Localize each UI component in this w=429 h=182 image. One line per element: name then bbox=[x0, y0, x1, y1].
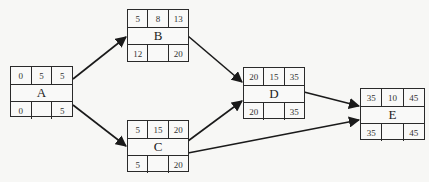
edge-c-d bbox=[188, 101, 242, 141]
node-d: 20 15 35 D 20 35 bbox=[243, 67, 305, 119]
node-d-bottom-row: 20 35 bbox=[244, 103, 304, 120]
late-finish: 20 bbox=[168, 45, 188, 62]
node-a-bottom-row: 0 5 bbox=[11, 102, 72, 119]
node-a: 0 5 5 A 0 5 bbox=[10, 66, 73, 117]
edge-c-e bbox=[188, 120, 359, 153]
node-e-bottom-row: 35 45 bbox=[361, 124, 424, 141]
late-finish: 5 bbox=[51, 102, 72, 119]
early-finish: 45 bbox=[403, 89, 424, 106]
slack bbox=[31, 102, 52, 119]
node-d-top-row: 20 15 35 bbox=[244, 68, 304, 85]
node-d-label: D bbox=[244, 85, 304, 103]
edge-a-c bbox=[73, 105, 126, 146]
node-b-label: B bbox=[128, 27, 188, 45]
slack bbox=[147, 45, 167, 62]
node-e: 35 10 45 E 35 45 bbox=[360, 88, 425, 140]
node-a-top-row: 0 5 5 bbox=[11, 67, 72, 84]
early-start: 5 bbox=[128, 10, 147, 27]
network-diagram: 0 5 5 A 0 5 5 8 13 B 12 20 5 15 20 C bbox=[0, 0, 429, 182]
late-finish: 20 bbox=[168, 156, 188, 173]
early-start: 35 bbox=[361, 89, 381, 106]
early-start: 20 bbox=[244, 68, 263, 85]
duration: 5 bbox=[31, 67, 52, 84]
node-c: 5 15 20 C 5 20 bbox=[127, 120, 189, 172]
edge-b-d bbox=[188, 36, 242, 82]
slack bbox=[147, 156, 167, 173]
node-e-label: E bbox=[361, 106, 424, 124]
early-start: 5 bbox=[128, 121, 147, 138]
node-c-label: C bbox=[128, 138, 188, 156]
node-c-top-row: 5 15 20 bbox=[128, 121, 188, 138]
late-finish: 35 bbox=[284, 103, 304, 120]
late-start: 12 bbox=[128, 45, 147, 62]
early-finish: 13 bbox=[168, 10, 188, 27]
duration: 10 bbox=[381, 89, 402, 106]
early-finish: 5 bbox=[51, 67, 72, 84]
node-b: 5 8 13 B 12 20 bbox=[127, 9, 189, 62]
edge-d-e bbox=[304, 92, 359, 106]
node-b-top-row: 5 8 13 bbox=[128, 10, 188, 27]
duration: 15 bbox=[263, 68, 283, 85]
slack bbox=[381, 124, 402, 141]
early-finish: 35 bbox=[284, 68, 304, 85]
late-finish: 45 bbox=[403, 124, 424, 141]
edge-a-b bbox=[73, 37, 126, 79]
early-finish: 20 bbox=[168, 121, 188, 138]
slack bbox=[263, 103, 283, 120]
late-start: 20 bbox=[244, 103, 263, 120]
late-start: 0 bbox=[11, 102, 31, 119]
late-start: 35 bbox=[361, 124, 381, 141]
early-start: 0 bbox=[11, 67, 31, 84]
node-a-label: A bbox=[11, 84, 72, 102]
node-e-top-row: 35 10 45 bbox=[361, 89, 424, 106]
duration: 8 bbox=[147, 10, 167, 27]
duration: 15 bbox=[147, 121, 167, 138]
node-b-bottom-row: 12 20 bbox=[128, 45, 188, 62]
late-start: 5 bbox=[128, 156, 147, 173]
node-c-bottom-row: 5 20 bbox=[128, 156, 188, 173]
